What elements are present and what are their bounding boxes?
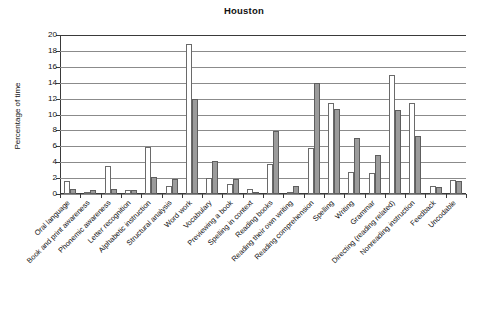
bar [375, 155, 381, 194]
x-tick-mark [263, 194, 264, 198]
bar-group [409, 35, 421, 194]
y-tick-label: 18 [35, 47, 57, 55]
bar-group [247, 35, 259, 194]
gridline [60, 130, 466, 131]
bar [314, 83, 320, 194]
gridline [60, 115, 466, 116]
x-tick-mark [121, 194, 122, 198]
chart-title: Houston [0, 5, 488, 16]
x-tick-mark [344, 194, 345, 198]
gridline [60, 51, 466, 52]
gridline [60, 178, 466, 179]
bar [456, 181, 462, 194]
x-axis-label: Spelling [311, 199, 335, 223]
bar-group [125, 35, 137, 194]
bar [415, 136, 421, 194]
bar-group [186, 35, 198, 194]
bar-group [308, 35, 320, 194]
bar [436, 187, 442, 194]
bar-group [430, 35, 442, 194]
bar-group [348, 35, 360, 194]
bar [395, 110, 401, 194]
bar-group [369, 35, 381, 194]
gridline [60, 35, 466, 36]
bar [131, 190, 137, 194]
x-tick-mark [182, 194, 183, 198]
x-tick-mark [405, 194, 406, 198]
bar-group [105, 35, 117, 194]
bar [172, 179, 178, 194]
x-tick-mark [425, 194, 426, 198]
x-tick-mark [80, 194, 81, 198]
x-tick-mark [385, 194, 386, 198]
x-tick-mark [101, 194, 102, 198]
bar-chart: Houston Percentage of time 0246810121416… [0, 0, 488, 310]
bar-group [267, 35, 279, 194]
bar-group [389, 35, 401, 194]
bar [192, 99, 198, 194]
bar [212, 161, 218, 194]
y-tick-label: 14 [35, 79, 57, 87]
bar [334, 109, 340, 194]
bar-group [227, 35, 239, 194]
x-tick-mark [466, 194, 467, 198]
plot-area [60, 35, 466, 194]
bar [273, 131, 279, 194]
bar-group [206, 35, 218, 194]
x-tick-mark [365, 194, 366, 198]
x-tick-mark [283, 194, 284, 198]
y-tick-label: 10 [35, 111, 57, 119]
bar [293, 186, 299, 194]
bar-group [84, 35, 96, 194]
x-tick-mark [446, 194, 447, 198]
x-tick-mark [304, 194, 305, 198]
bar [90, 190, 96, 194]
bar [354, 138, 360, 194]
bar [151, 177, 157, 194]
bar-group [64, 35, 76, 194]
bar [70, 189, 76, 194]
bar-group [145, 35, 157, 194]
x-tick-mark [141, 194, 142, 198]
x-tick-mark [222, 194, 223, 198]
y-tick-label: 4 [35, 158, 57, 166]
x-tick-mark [324, 194, 325, 198]
x-tick-mark [202, 194, 203, 198]
bar-group [287, 35, 299, 194]
y-tick-label: 8 [35, 126, 57, 134]
bar [253, 192, 259, 194]
x-tick-mark [60, 194, 61, 198]
y-tick-label: 16 [35, 63, 57, 71]
gridline [60, 99, 466, 100]
gridline [60, 83, 466, 84]
bar-group [450, 35, 462, 194]
gridline [60, 67, 466, 68]
bar [111, 189, 117, 194]
gridline [60, 146, 466, 147]
y-tick-label: 6 [35, 142, 57, 150]
gridline [60, 162, 466, 163]
y-tick-label: 2 [35, 174, 57, 182]
x-tick-mark [243, 194, 244, 198]
bar-group [328, 35, 340, 194]
y-tick-label: 0 [35, 190, 57, 198]
x-tick-mark [162, 194, 163, 198]
y-tick-label: 12 [35, 95, 57, 103]
bar [233, 179, 239, 194]
y-tick-label: 20 [35, 31, 57, 39]
bar-group [166, 35, 178, 194]
y-axis-label: Percentage of time [13, 56, 27, 176]
